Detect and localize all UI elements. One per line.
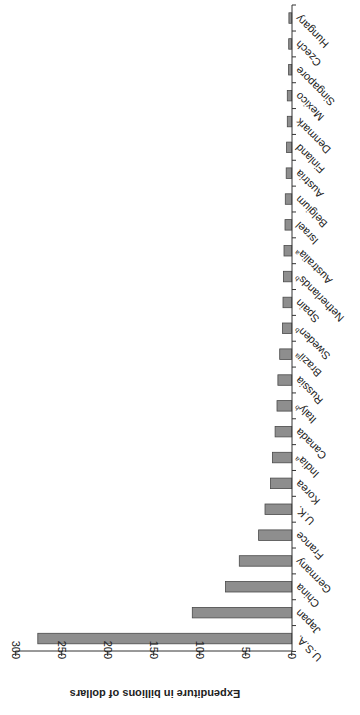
bar-korea [271,478,292,489]
bar-australia [284,246,292,257]
bar-brazil [280,349,292,360]
bar-czech [289,39,292,50]
footnote-marker: b [293,275,301,283]
bar-hungary [289,13,292,23]
bar-denmark [287,116,291,127]
value-tick-label: 250 [56,641,68,659]
bar-japan [192,607,291,618]
category-label: Korea [292,477,322,507]
footnote-marker: a [293,352,301,360]
bar-france [259,530,292,541]
footnote-marker: a [293,249,301,257]
bars-group [38,13,292,644]
bar-chart: 050100150200250300 U.S.A.JapanChinaGerma… [0,0,360,715]
category-label: Japan [293,607,323,637]
bar-canada [275,426,292,437]
bar-netherlands [283,271,291,282]
category-labels: U.S.A.JapanChinaGermanyFranceU.K.KoreaIn… [292,12,346,664]
value-tick-label: 150 [148,641,160,659]
bar-austria [286,168,292,179]
value-tick-label: 0 [286,653,298,659]
value-tick-label: 200 [102,641,114,659]
bar-india [272,452,291,463]
footnote-marker: b [293,326,301,334]
bar-italy [277,401,292,412]
footnote-marker: a [293,456,301,464]
bar-sweden [283,323,292,334]
category-label: Russia [292,374,325,407]
bar-israel [285,220,292,231]
category-label: France [293,530,326,563]
value-tick-label: 300 [10,641,22,659]
bar-mexico [287,90,291,101]
bar-uk [265,504,292,515]
bar-russia [278,375,292,386]
value-axis-title: Expenditure in billions of dollars [70,688,241,700]
category-label: U.S.A. [293,633,324,664]
footnote-marker: b [293,404,301,412]
bar-belgium [285,194,291,205]
bar-germany [239,556,291,567]
bar-usa [38,633,292,644]
value-tick-label: 50 [240,647,252,659]
value-tick-label: 100 [194,641,206,659]
bar-singapore [289,65,292,76]
bar-china [226,582,292,593]
bar-spain [283,297,292,308]
bar-finland [287,142,292,153]
